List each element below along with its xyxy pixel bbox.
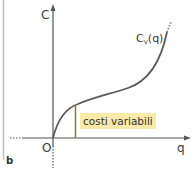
x-axis-arrow-icon <box>184 136 191 141</box>
curve-label-main: C <box>136 32 144 45</box>
cost-curve-dotted-extension <box>167 22 171 32</box>
curve-label-tail: (q) <box>148 32 164 45</box>
x-axis-label: q <box>177 141 185 155</box>
y-axis-label: C <box>41 8 49 22</box>
chart-canvas <box>0 0 193 171</box>
origin-label: O <box>42 141 51 155</box>
panel-tag: b <box>6 155 13 166</box>
y-axis-arrow-icon <box>51 4 56 11</box>
annotation-label: costi variabili <box>80 113 156 129</box>
curve-label: Cv(q) <box>136 32 163 46</box>
